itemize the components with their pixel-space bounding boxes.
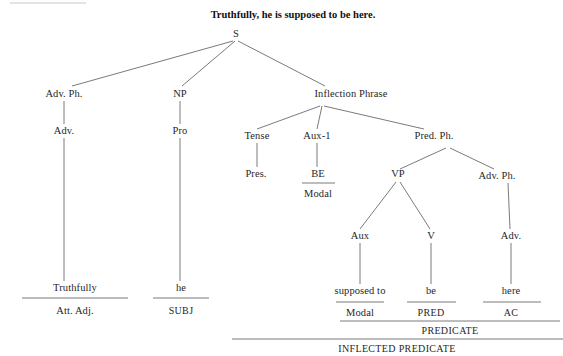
tree-branch-predph-to-vp — [400, 148, 446, 169]
tree-node-be: BE — [311, 169, 325, 180]
tree-node-func-attadj: Att. Adj. — [56, 306, 93, 317]
tree-node-func-ac: AC — [504, 308, 519, 318]
tree-node-aux: Aux — [351, 231, 369, 242]
tree-branch-infl-to-aux1 — [317, 106, 322, 129]
tree-node-aux1: Aux-1 — [303, 131, 330, 142]
tree-node-word-he: he — [176, 283, 186, 294]
tree-node-v: V — [427, 231, 435, 242]
tree-branch-advph2-to-adv2 — [508, 183, 510, 229]
tree-branch-vp-to-aux — [360, 182, 396, 229]
tree-node-func-pred: PRED — [418, 308, 445, 318]
tree-node-func-inflpred: INFLECTED PREDICATE — [338, 344, 455, 354]
tree-node-func-subj: SUBJ — [169, 306, 194, 316]
syntax-tree-diagram: Truthfully, he is supposed to be here. S… — [0, 0, 563, 356]
underline-rules-group — [22, 183, 563, 339]
tree-node-predph: Pred. Ph. — [414, 131, 453, 142]
tree-node-modal-upper: Modal — [304, 189, 332, 200]
tree-node-word-be: be — [426, 286, 436, 297]
tree-node-word-truthfully: Truthfully — [53, 283, 97, 294]
tree-node-func-modal: Modal — [346, 308, 374, 319]
tree-node-advph2: Adv. Ph. — [478, 171, 515, 182]
sentence-title: Truthfully, he is supposed to be here. — [211, 10, 376, 21]
tree-node-tense: Tense — [245, 131, 270, 142]
tree-node-np: NP — [173, 89, 187, 100]
tree-node-word-here: here — [502, 286, 520, 297]
tree-node-s: S — [233, 29, 239, 40]
tree-branch-infl-to-tense — [257, 106, 320, 129]
tree-branch-s-to-infl — [238, 41, 325, 86]
tree-node-func-predicate: PREDICATE — [421, 326, 478, 336]
tree-node-adv1: Adv. — [54, 126, 74, 137]
tree-node-pro: Pro — [173, 126, 188, 137]
tree-node-pres: Pres. — [245, 169, 266, 180]
tree-node-vp: VP — [391, 169, 405, 180]
tree-node-word-supposed: supposed to — [335, 286, 386, 297]
tree-node-adv2: Adv. — [501, 231, 521, 242]
tree-branch-vp-to-v — [400, 182, 430, 229]
tree-node-infl: Inflection Phrase — [314, 89, 387, 100]
tree-branch-predph-to-advph2 — [450, 148, 494, 169]
tree-branch-infl-to-predph — [324, 106, 424, 129]
tree-node-advph1: Adv. Ph. — [45, 89, 82, 100]
tree-branches-group — [64, 41, 511, 284]
